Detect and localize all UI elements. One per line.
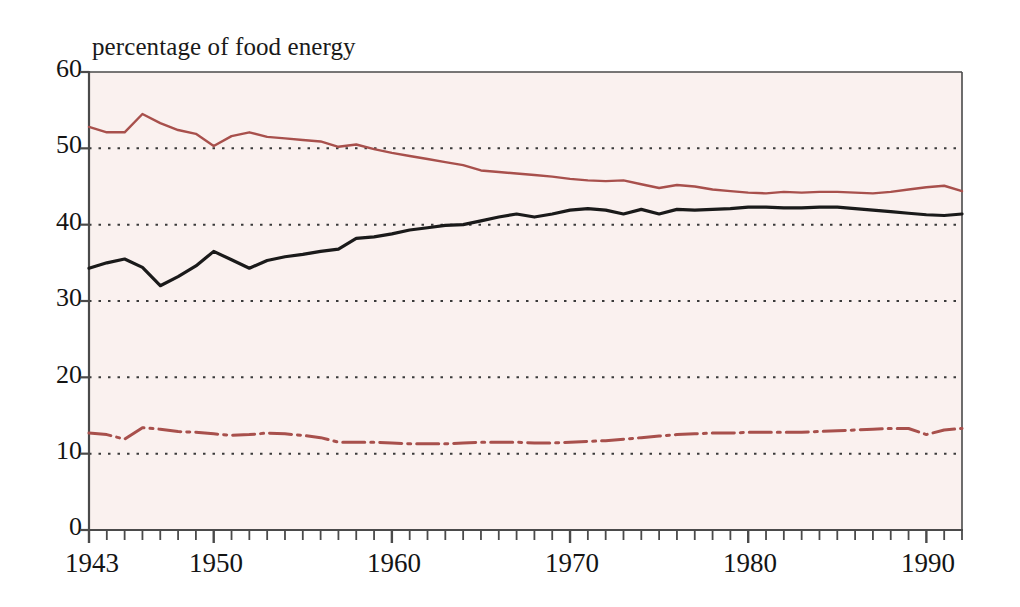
chart-figure: percentage of food energy 60 50 40 30 20…: [0, 0, 1020, 607]
x-minor-ticks: [89, 530, 962, 543]
plot-svg: [0, 0, 1020, 607]
y-major-ticks: [80, 72, 89, 530]
